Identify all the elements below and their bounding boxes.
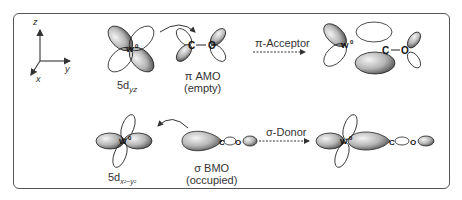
- orbital-sigma-result: W0 C O: [316, 113, 434, 170]
- svg-text:O: O: [208, 40, 216, 51]
- label-5dyz-sub: yz: [129, 85, 137, 94]
- svg-text:W: W: [341, 41, 349, 50]
- svg-text:C: C: [188, 40, 195, 51]
- svg-text:C: C: [389, 138, 395, 147]
- label-5dyz: 5dyz: [117, 79, 137, 96]
- label-sigma-donor: σ-Donor: [266, 126, 306, 138]
- label-pi-acceptor: π-Acceptor: [255, 37, 310, 49]
- sigma-bmo-title: σ BMO: [186, 162, 237, 174]
- svg-text:0: 0: [350, 39, 354, 45]
- orbital-5dyz: W0: [103, 21, 158, 76]
- label-5dx2y2-main: 5d: [108, 171, 120, 183]
- sigma-bmo-subtitle: (occupied): [186, 174, 237, 186]
- label-pi-amo: π AMO (empty): [184, 70, 221, 94]
- label-5dyz-main: 5d: [117, 79, 129, 91]
- donation-arrow-bottom: [158, 119, 188, 128]
- svg-text:O: O: [410, 138, 416, 147]
- svg-text:O: O: [235, 138, 241, 147]
- pi-amo-subtitle: (empty): [184, 82, 221, 94]
- label-sigma-bmo: σ BMO (occupied): [186, 162, 237, 186]
- axis-label-z: z: [33, 17, 38, 27]
- orbital-pi-result: W0 C O: [305, 20, 423, 74]
- svg-text:C: C: [219, 138, 225, 147]
- svg-text:W: W: [126, 45, 134, 54]
- axis-label-y: y: [65, 64, 70, 74]
- pi-amo-title: π AMO: [184, 70, 221, 82]
- label-5dx2y2: 5dx²−y²: [108, 171, 136, 188]
- label-5dx2y2-sub: x²−y²: [120, 178, 136, 185]
- svg-text:C: C: [382, 45, 389, 56]
- svg-text:W: W: [340, 137, 348, 146]
- orbital-pi-amo: C O: [173, 26, 228, 64]
- donation-arrow-top: [160, 25, 195, 32]
- orbital-5dx2y2: W0: [96, 113, 152, 170]
- orbital-sigma-bmo: C O: [182, 131, 257, 151]
- svg-text:W: W: [119, 137, 127, 146]
- axis-label-x: x: [36, 74, 41, 84]
